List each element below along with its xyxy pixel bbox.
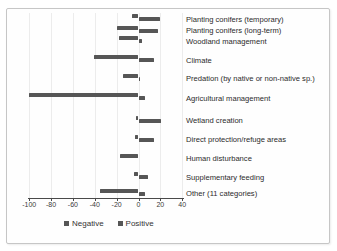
legend-item-negative: Negative (64, 219, 104, 228)
bar-negative (94, 55, 139, 59)
category-label: Human disturbance (186, 153, 252, 164)
gridline (29, 13, 30, 198)
bar-positive (139, 96, 146, 100)
legend-label-positive: Positive (126, 219, 154, 228)
bar-negative (135, 135, 138, 139)
bar-negative (119, 36, 139, 40)
x-tick-label: 40 (167, 201, 197, 209)
legend-item-positive: Positive (118, 219, 154, 228)
category-label: Wetland creation (186, 115, 243, 126)
gridline (51, 13, 52, 198)
category-label: Supplementary feeding (186, 172, 264, 183)
gridline (117, 13, 118, 198)
category-label: Predation (by native or non-native sp.) (186, 73, 315, 84)
bar-positive (139, 192, 146, 196)
gridline (160, 13, 161, 198)
plot-area: -100-80-60-40-2002040Planting conifers (… (0, 0, 337, 251)
bar-negative (29, 93, 138, 97)
bar-negative (123, 74, 138, 78)
negative-swatch-icon (64, 221, 69, 226)
bar-positive (139, 175, 149, 179)
category-label: Agricultural management (186, 93, 270, 104)
bar-negative (120, 154, 139, 158)
category-label: Woodland management (186, 36, 267, 47)
gridline (95, 13, 96, 198)
category-label: Other (11 categories) (186, 188, 257, 199)
bar-negative (100, 189, 138, 193)
bar-positive (139, 39, 142, 43)
figure: -100-80-60-40-2002040Planting conifers (… (0, 0, 337, 251)
bar-positive (139, 138, 154, 142)
category-label: Planting conifers (long-term) (186, 25, 281, 36)
bar-positive (139, 29, 159, 33)
bar-positive (139, 77, 140, 81)
bar-positive (139, 119, 162, 123)
x-axis-line (28, 198, 184, 199)
legend: Negative Positive (64, 219, 154, 228)
gridline (73, 13, 74, 198)
legend-label-negative: Negative (72, 219, 104, 228)
gridline (182, 13, 183, 198)
category-label: Planting conifers (temporary) (186, 14, 284, 25)
bar-positive (139, 58, 154, 62)
bar-negative (117, 26, 139, 30)
category-label: Climate (186, 55, 212, 66)
bar-negative (134, 172, 138, 176)
positive-swatch-icon (118, 221, 123, 226)
bar-positive (139, 17, 161, 21)
category-label: Direct protection/refuge areas (186, 134, 286, 145)
bar-negative (132, 14, 139, 18)
